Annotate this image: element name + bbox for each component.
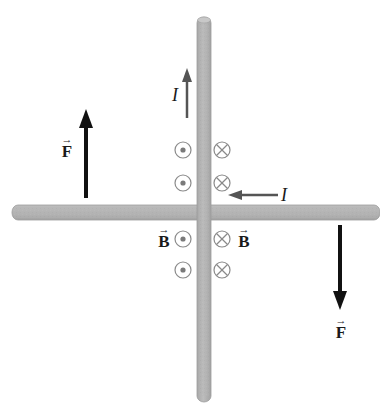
current-arrow-up-icon — [182, 68, 192, 118]
force-arrow-down-icon — [333, 225, 347, 310]
cross-symbol-icon — [214, 231, 230, 247]
cross-symbol-icon — [214, 142, 230, 158]
force-label-left: → F — [59, 136, 75, 160]
dot-symbol-icon — [175, 231, 191, 247]
current-label-horizontal: I — [281, 186, 287, 204]
dot-symbol-icon — [175, 142, 191, 158]
diagram-svg — [0, 0, 380, 405]
cross-symbol-icon — [214, 262, 230, 278]
force-label-right: → F — [333, 317, 349, 341]
force-arrow-up-icon — [79, 109, 93, 198]
vertical-wire — [197, 17, 211, 402]
dot-symbol-icon — [175, 175, 191, 191]
current-label-vertical: I — [172, 86, 178, 104]
field-label-right: → B — [236, 226, 252, 250]
field-label-left: → B — [156, 226, 172, 250]
dot-symbol-icon — [175, 262, 191, 278]
current-arrow-left-icon — [228, 190, 278, 200]
cross-symbol-icon — [214, 175, 230, 191]
horizontal-wire — [12, 205, 380, 220]
diagram-canvas: I I → F → F → B → B — [0, 0, 380, 405]
